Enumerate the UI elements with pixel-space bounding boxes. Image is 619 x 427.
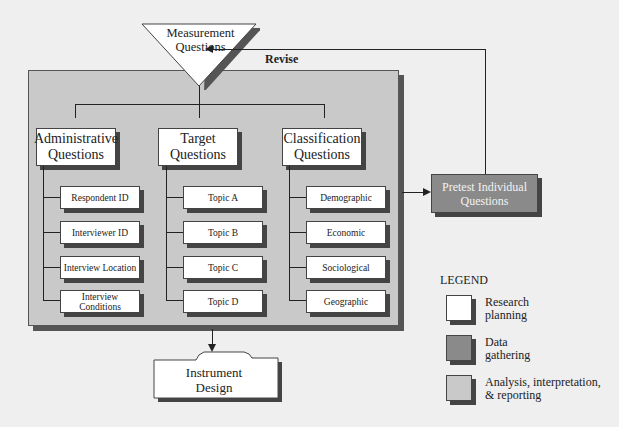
branch [166,232,183,233]
branch [166,267,183,268]
revise-arrow-icon [205,45,213,53]
connector [75,104,325,105]
branch [43,197,60,198]
legend-swatch-research-planning [446,295,472,321]
revise-line [210,49,486,50]
pretest-individual-questions-box: Pretest Individual Questions [431,174,538,213]
branch [289,232,306,233]
legend-swatch-data-gathering [446,335,472,361]
item-demographic: Demographic [306,186,386,209]
legend-label-research-planning: Research planning [485,296,545,322]
item-topic-a: Topic A [183,186,263,209]
spine [43,166,44,300]
item-topic-c: Topic C [183,256,263,279]
connector [199,86,200,104]
pretest-arrow-line [402,192,424,193]
legend-label-data-gathering: Data gathering [485,336,545,362]
pretest-arrow-icon [423,188,431,196]
connector [75,104,76,118]
branch [166,197,183,198]
branch [43,232,60,233]
legend-label-analysis: Analysis, interpretation, & reporting [485,376,605,402]
item-topic-b: Topic B [183,221,263,244]
item-topic-d: Topic D [183,290,263,313]
branch [289,300,306,301]
administrative-questions-box: Administrative Questions [36,128,116,166]
item-respondent-id: Respondent ID [60,186,140,209]
classification-questions-box: Classification Questions [282,128,362,166]
branch [43,300,60,301]
revise-line-vertical [485,49,486,174]
legend-title: LEGEND [440,273,488,288]
item-interview-location: Interview Location [60,256,140,279]
spine [166,166,167,300]
connector [324,104,325,118]
branch [166,300,183,301]
revise-label: Revise [265,52,298,67]
item-economic: Economic [306,221,386,244]
item-interview-conditions: Interview Conditions [60,290,140,313]
connector [199,104,200,118]
branch [289,197,306,198]
spine [289,166,290,300]
branch [43,267,60,268]
item-sociological: Sociological [306,256,386,279]
item-geographic: Geographic [306,290,386,313]
branch [289,267,306,268]
item-interviewer-id: Interviewer ID [60,221,140,244]
legend-swatch-analysis [446,375,472,401]
instrument-design-label: Instrument Design [170,365,258,395]
target-questions-box: Target Questions [158,128,238,166]
